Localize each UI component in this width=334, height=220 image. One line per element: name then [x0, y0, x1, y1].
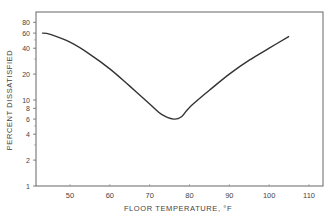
y-tick-label: 10	[22, 97, 30, 104]
dissatisfaction-curve	[42, 33, 289, 119]
plot-border	[36, 12, 323, 186]
x-tick-label: 80	[185, 191, 193, 200]
y-tick-label: 80	[22, 19, 30, 26]
y-tick-label: 4	[26, 131, 30, 138]
line-chart: 124681020406080 5060708090100110 FLOOR T…	[0, 0, 334, 220]
y-axis-label: PERCENT DISSATISFIED	[5, 50, 14, 151]
x-tick-label: 90	[225, 191, 233, 200]
x-tick-label: 60	[106, 191, 114, 200]
x-tick-label: 50	[66, 191, 74, 200]
x-tick-label: 100	[263, 191, 276, 200]
y-tick-label: 6	[26, 116, 30, 123]
y-tick-label: 60	[22, 30, 30, 37]
x-axis-label: FLOOR TEMPERATURE, °F	[124, 204, 232, 213]
y-axis-ticks: 124681020406080	[22, 19, 36, 190]
x-tick-label: 70	[145, 191, 153, 200]
plot-frame	[36, 12, 323, 186]
y-tick-label: 2	[26, 157, 30, 164]
y-tick-label: 20	[22, 71, 30, 78]
y-tick-label: 40	[22, 45, 30, 52]
y-tick-label: 1	[26, 183, 30, 190]
y-tick-label: 8	[26, 105, 30, 112]
x-tick-label: 110	[303, 191, 315, 200]
